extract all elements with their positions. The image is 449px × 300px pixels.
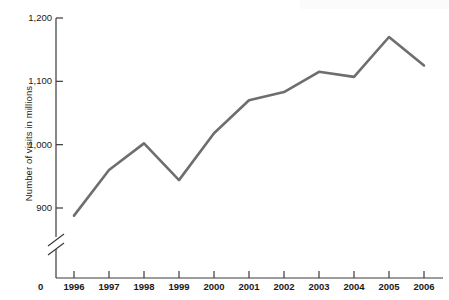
plot-area <box>0 0 449 300</box>
data-series-line <box>74 37 424 216</box>
x-tick-marks <box>74 271 424 278</box>
axes-group <box>48 18 443 278</box>
y-tick-marks <box>56 18 63 208</box>
line-chart: Number of visits in millions 1,200 1,100… <box>0 0 449 300</box>
